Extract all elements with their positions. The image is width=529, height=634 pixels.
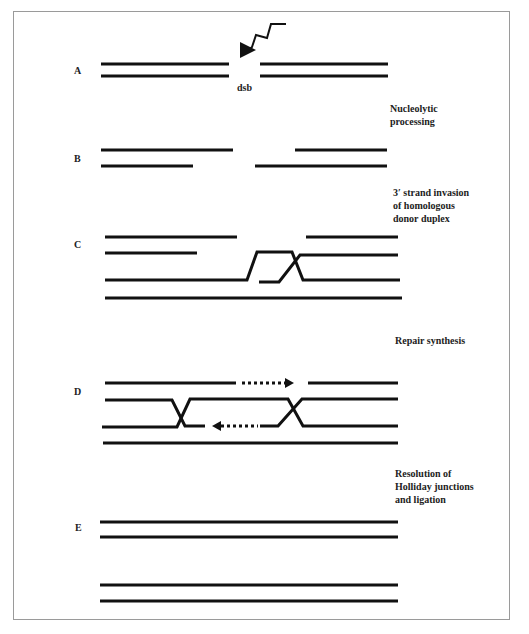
desc-line: Repair synthesis: [395, 334, 465, 347]
desc-line: Resolution of: [395, 467, 474, 480]
step-label-c: C: [74, 239, 81, 250]
step-b-duplex: [101, 150, 387, 166]
desc-line: and ligation: [395, 493, 474, 506]
step-label-a: A: [74, 65, 81, 76]
dsb-repair-diagram: [0, 0, 529, 634]
transition-strand-invasion: 3′ strand invasion of homologous donor d…: [393, 186, 469, 225]
step-d-repair-synthesis: [102, 383, 398, 443]
desc-line: Holliday junctions: [395, 480, 474, 493]
lightning-bolt-icon: [240, 24, 286, 58]
step-label-b: B: [74, 153, 81, 164]
step-e-products: [100, 522, 398, 601]
step-label-d: D: [74, 386, 81, 397]
transition-nucleolytic-processing: Nucleolytic processing: [390, 102, 438, 128]
step-a-duplex: [101, 64, 388, 76]
transition-repair-synthesis: Repair synthesis: [395, 334, 465, 347]
desc-line: donor duplex: [393, 212, 469, 225]
desc-line: of homologous: [393, 199, 469, 212]
dotted-arrow-left-icon: [212, 421, 258, 431]
desc-line: processing: [390, 115, 438, 128]
dsb-annotation: dsb: [237, 82, 252, 93]
step-c-strand-invasion: [105, 237, 402, 298]
desc-line: 3′ strand invasion: [393, 186, 469, 199]
dotted-arrow-right-icon: [242, 378, 294, 388]
transition-resolution: Resolution of Holliday junctions and lig…: [395, 467, 474, 506]
step-label-e: E: [75, 522, 82, 533]
desc-line: Nucleolytic: [390, 102, 438, 115]
